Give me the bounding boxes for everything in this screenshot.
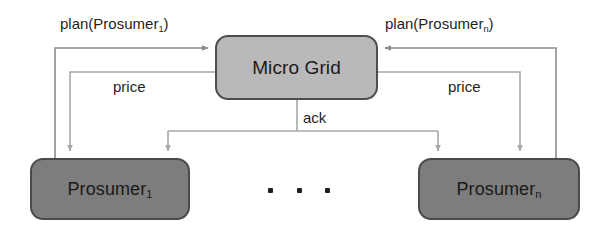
node-prosumer-n[interactable]: Prosumern	[418, 158, 580, 220]
node-micro-grid-label: Micro Grid	[252, 58, 341, 77]
node-prosumer-n-label: Prosumern	[456, 180, 541, 198]
ellipsis-dot	[325, 188, 330, 193]
node-prosumer-1-label: Prosumer1	[67, 180, 152, 198]
edge-plan-prosumer-1	[55, 48, 208, 158]
diagram-canvas: Micro Grid Prosumer1 Prosumern plan(Pros…	[0, 0, 607, 228]
edge-label-price-right: price	[448, 79, 481, 94]
edge-label-plan-prosumer-1: plan(Prosumer1)	[60, 16, 169, 31]
edge-label-price-left: price	[113, 79, 146, 94]
edge-label-plan-prosumer-n: plan(Prosumern)	[385, 16, 494, 31]
ellipsis-dot	[297, 188, 302, 193]
node-prosumer-1[interactable]: Prosumer1	[30, 158, 190, 220]
edge-plan-prosumer-n	[385, 48, 556, 158]
edge-label-ack: ack	[303, 110, 326, 125]
node-micro-grid[interactable]: Micro Grid	[215, 35, 378, 100]
ellipsis-between-prosumers	[268, 182, 330, 198]
ellipsis-dot	[268, 188, 273, 193]
